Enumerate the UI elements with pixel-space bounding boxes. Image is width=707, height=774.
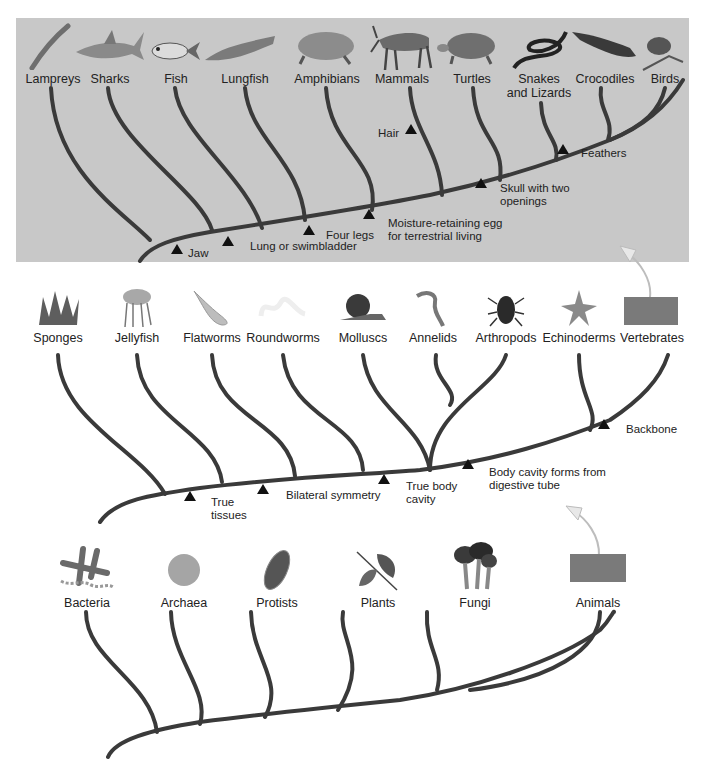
taxon-label-bacteria: Bacteria [64,596,110,610]
mushroom-icon [451,541,499,593]
leaf-icon [355,550,401,592]
protist-icon [257,546,297,594]
taxon-label-animals: Animals [576,596,620,610]
taxon-label-fungi: Fungi [459,596,490,610]
bacteria-icon [57,543,117,591]
taxon-label-plants: Plants [361,596,396,610]
connector-arrows [0,0,707,774]
archaea-icon [163,550,205,590]
taxon-label-protists: Protists [256,596,298,610]
animals-box [570,554,626,582]
taxon-label-archaea: Archaea [161,596,208,610]
